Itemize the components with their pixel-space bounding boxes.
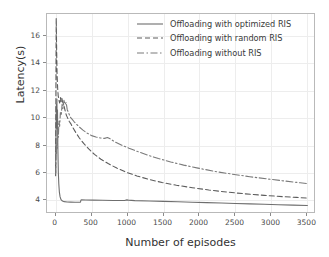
legend-label: Offloading without RIS	[170, 48, 262, 58]
x-axis-label: Number of episodes	[46, 236, 315, 249]
x-tick-mark	[163, 213, 164, 216]
x-tick-label: 3000	[261, 218, 280, 227]
chart-legend: Offloading with optimized RISOffloading …	[137, 17, 291, 61]
x-tick-mark	[55, 213, 56, 216]
x-tick-label: 0	[52, 218, 57, 227]
legend-label: Offloading with optimized RIS	[170, 19, 291, 29]
x-tick-mark	[91, 213, 92, 216]
x-tick-label: 2000	[189, 218, 208, 227]
legend-item[interactable]: Offloading with random RIS	[137, 32, 291, 45]
y-tick-mark	[43, 35, 46, 36]
series-line-2	[56, 100, 308, 183]
y-tick-label: 4	[20, 195, 40, 204]
legend-label: Offloading with random RIS	[170, 33, 282, 43]
y-tick-mark	[43, 62, 46, 63]
chart-figure: 0500100015002000250030003500 46810121416…	[0, 0, 329, 257]
x-tick-label: 1500	[153, 218, 172, 227]
legend-line-sample-2	[137, 48, 163, 58]
x-tick-label: 500	[83, 218, 97, 227]
x-tick-mark	[127, 213, 128, 216]
y-tick-mark	[43, 199, 46, 200]
x-tick-mark	[198, 213, 199, 216]
y-tick-mark	[43, 90, 46, 91]
legend-line-sample-0	[137, 19, 163, 29]
x-tick-label: 1000	[117, 218, 136, 227]
x-tick-label: 2500	[225, 218, 244, 227]
y-axis-label: Latency(s)	[14, 25, 27, 125]
y-tick-mark	[43, 172, 46, 173]
x-tick-mark	[270, 213, 271, 216]
legend-line-sample-1	[137, 33, 163, 43]
x-tick-label: 3500	[297, 218, 316, 227]
y-tick-mark	[43, 117, 46, 118]
y-tick-label: 8	[20, 140, 40, 149]
series-line-0	[56, 99, 308, 206]
y-tick-label: 6	[20, 167, 40, 176]
legend-item[interactable]: Offloading without RIS	[137, 46, 291, 59]
x-tick-mark	[234, 213, 235, 216]
y-tick-mark	[43, 145, 46, 146]
legend-item[interactable]: Offloading with optimized RIS	[137, 17, 291, 30]
x-tick-mark	[306, 213, 307, 216]
